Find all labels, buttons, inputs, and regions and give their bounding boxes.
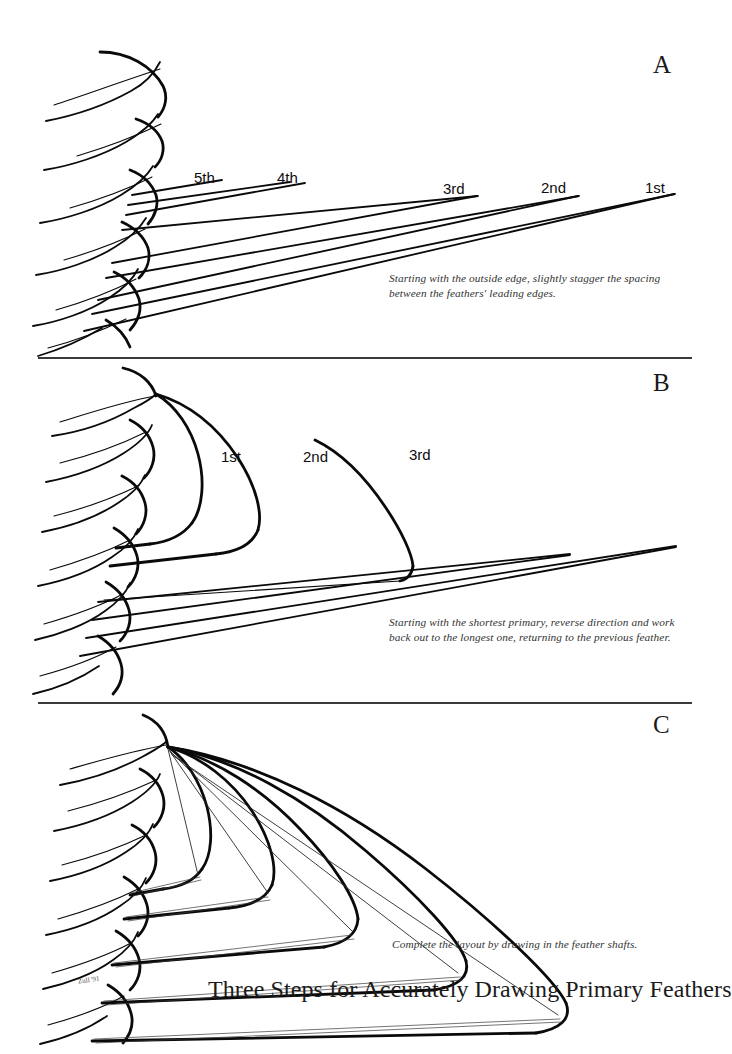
page-title: Three Steps for Accurately Drawing Prima… [208, 977, 732, 1001]
feather-label-a-2nd: 2nd [541, 180, 566, 195]
panel-label-c: C [653, 712, 670, 737]
feather-label-a-5th: 5th [194, 170, 215, 185]
panel-divider-a-b [38, 357, 692, 359]
panel-b-drawing [0, 358, 721, 703]
covert-feather-group-a [33, 52, 166, 356]
panel-label-a: A [653, 52, 672, 77]
panel-a-drawing [0, 0, 721, 358]
leading-edge-lines-a [84, 180, 675, 331]
feather-label-a-3rd: 3rd [443, 181, 465, 196]
feather-label-b-3rd: 3rd [409, 447, 431, 462]
caption-c: Complete the layout by drawing in the fe… [392, 937, 702, 952]
feather-label-a-1st: 1st [645, 180, 665, 195]
caption-a: Starting with the outside edge, slightly… [389, 271, 701, 301]
primary-outlines-b [104, 394, 413, 600]
panel-b [0, 358, 721, 703]
caption-b: Starting with the shortest primary, reve… [389, 615, 707, 645]
feather-label-b-2nd: 2nd [303, 449, 328, 464]
feather-label-b-1st: 1st [221, 449, 241, 464]
panel-a [0, 0, 721, 358]
covert-feather-group-c [40, 715, 168, 1044]
panel-label-b: B [653, 370, 670, 395]
panel-divider-b-c [38, 702, 692, 704]
feather-label-a-4th: 4th [277, 170, 298, 185]
